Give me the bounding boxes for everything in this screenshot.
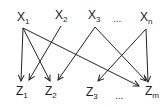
node-z1-base: Z xyxy=(16,84,23,98)
node-x2-base: X xyxy=(55,8,63,22)
node-zm-subscript: m xyxy=(152,91,159,100)
edges-group xyxy=(21,26,148,86)
edge-x3-to-zm xyxy=(95,27,146,81)
bipartite-diagram: X1X2X3Xn Z1Z2Z3Zm ... ... xyxy=(0,0,167,107)
edge-x1-to-z2 xyxy=(23,28,50,81)
edge-x1-to-z1 xyxy=(21,28,23,81)
node-z2-subscript: 2 xyxy=(52,91,57,100)
node-x2: X2 xyxy=(55,8,68,24)
node-zm-base: Z xyxy=(145,84,152,98)
node-x1: X1 xyxy=(17,10,30,26)
node-xn-subscript: n xyxy=(148,17,152,26)
node-z2-base: Z xyxy=(45,84,52,98)
node-xn-base: X xyxy=(140,10,148,24)
edge-xn-to-zm xyxy=(146,29,148,82)
top-ellipsis: ... xyxy=(113,13,121,24)
edge-x1-to-zm xyxy=(23,28,139,86)
node-x3-base: X xyxy=(88,8,96,22)
edge-x3-to-z2 xyxy=(58,27,95,80)
input-nodes-group: X1X2X3Xn xyxy=(17,8,152,26)
node-zm: Zm xyxy=(145,84,159,100)
node-xn: Xn xyxy=(140,10,152,26)
node-z1: Z1 xyxy=(16,84,28,100)
output-nodes-group: Z1Z2Z3Zm xyxy=(16,84,159,101)
node-x1-subscript: 1 xyxy=(25,17,30,26)
node-z3: Z3 xyxy=(86,85,98,101)
node-z3-subscript: 3 xyxy=(93,92,98,101)
node-z1-subscript: 1 xyxy=(23,91,28,100)
node-x3-subscript: 3 xyxy=(96,15,101,24)
node-x3: X3 xyxy=(88,8,101,24)
node-z3-base: Z xyxy=(86,85,93,99)
bottom-ellipsis: ... xyxy=(115,90,123,101)
node-x2-subscript: 2 xyxy=(63,15,68,24)
node-x1-base: X xyxy=(17,10,25,24)
node-z2: Z2 xyxy=(45,84,57,100)
